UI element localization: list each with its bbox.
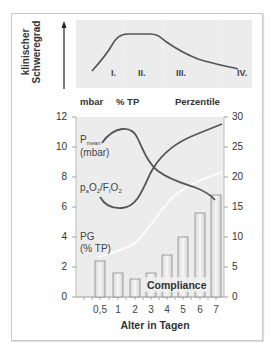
- bar-0-5: [95, 261, 105, 297]
- x-tick-7: 7: [213, 304, 219, 315]
- x-tick-2: 2: [132, 304, 138, 315]
- pmean-unit-label: (mbar): [80, 147, 109, 158]
- arrow-up-icon: [62, 21, 67, 28]
- x-tick-6: 6: [197, 304, 203, 315]
- left-tick-12: 12: [56, 111, 68, 122]
- left-tick-6: 6: [61, 201, 67, 212]
- phase-label-4: IV.: [237, 68, 247, 78]
- x-tick-3: 3: [148, 304, 154, 315]
- bar-1: [113, 273, 123, 297]
- x-axis-ticks: [84, 297, 216, 300]
- top-panel: klinischer Schweregrad I. II. III. IV.: [20, 20, 252, 89]
- severity-ylabel-line1: klinischer: [20, 29, 31, 76]
- right-tick-5: 5: [232, 261, 238, 272]
- right-tick-10: 10: [232, 231, 244, 242]
- compliance-label: Compliance: [147, 279, 207, 291]
- x-tick-0-5: 0,5: [93, 304, 107, 315]
- x-tick-5: 5: [180, 304, 186, 315]
- phase-label-2: II.: [138, 68, 146, 78]
- x-axis-label: Alter in Tagen: [120, 319, 189, 331]
- left-tick-10: 10: [56, 141, 68, 152]
- figure-svg: klinischer Schweregrad I. II. III. IV. m…: [0, 0, 269, 348]
- right-tick-20: 20: [232, 171, 244, 182]
- left-tick-8: 8: [61, 171, 67, 182]
- pg-label: PG: [80, 231, 95, 242]
- header-tp: % TP: [116, 96, 140, 107]
- right-tick-0: 0: [232, 291, 238, 302]
- right-axis-ticks: [224, 117, 228, 297]
- right-tick-30: 30: [232, 111, 244, 122]
- phase-label-3: III.: [176, 68, 186, 78]
- x-tick-1: 1: [115, 304, 121, 315]
- top-panel-bg: [76, 20, 252, 88]
- bar-7: [211, 195, 221, 297]
- pg-unit-label: (% TP): [80, 243, 111, 254]
- left-tick-4: 4: [61, 231, 67, 242]
- left-axis-ticks: [72, 117, 76, 297]
- header-mbar: mbar: [80, 96, 104, 107]
- left-tick-0: 0: [61, 291, 67, 302]
- right-tick-25: 25: [232, 141, 244, 152]
- right-tick-15: 15: [232, 201, 244, 212]
- left-tick-2: 2: [61, 261, 67, 272]
- lower-panel: 0 2 4 6 8 10 12 0 5 10 15 20 25 30: [56, 111, 244, 302]
- bar-2: [130, 279, 140, 297]
- header-perzentile: Perzentile: [175, 96, 220, 107]
- severity-ylabel-line2: Schweregrad: [31, 21, 42, 84]
- x-tick-4: 4: [164, 304, 170, 315]
- phase-label-1: I.: [111, 68, 116, 78]
